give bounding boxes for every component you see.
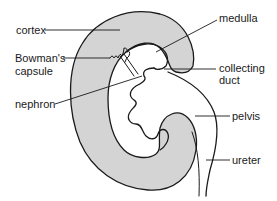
kidney-cortex: [71, 12, 197, 190]
label-bowmans-line1: Bowman's: [15, 52, 66, 64]
kidney-diagram: cortex Bowman's capsule nephron medulla …: [0, 0, 277, 201]
label-pelvis: pelvis: [232, 110, 261, 122]
label-collecting-line2: duct: [219, 74, 240, 86]
label-collecting-line1: collecting: [219, 62, 265, 74]
label-medulla: medulla: [219, 12, 258, 24]
label-nephron: nephron: [15, 98, 55, 110]
nephron-tubule: [120, 54, 138, 76]
label-bowmans-line2: capsule: [15, 65, 53, 77]
label-ureter: ureter: [232, 154, 261, 166]
label-cortex: cortex: [16, 24, 46, 36]
